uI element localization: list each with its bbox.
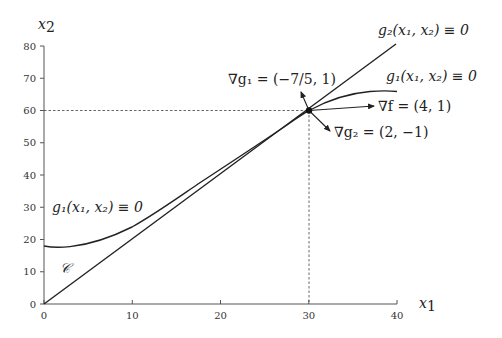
x-ticks: [44, 300, 397, 304]
grad-g2-label: ∇g₂ = (2, −1): [334, 124, 428, 140]
constraint-diagram: 0 10 20 30 40 50 60 70 80 0 10 20 30 40 …: [0, 0, 502, 338]
x-tick-label-10: 10: [126, 310, 139, 321]
y-tick-label-70: 70: [23, 73, 36, 84]
grad-g1-label: ∇g₁ = (−7/5, 1): [228, 71, 336, 87]
x-tick-label-0: 0: [41, 310, 47, 321]
optimal-point: [306, 107, 312, 113]
y-tick-label-0: 0: [30, 299, 36, 310]
g1-constraint-curve: [44, 91, 397, 247]
grad-g2-arrow: [309, 111, 330, 132]
g1-label-right: g₁(x₁, x₂) ≡ 0: [386, 68, 477, 84]
y-ticks: [40, 46, 44, 304]
grad-f-arrow: [309, 106, 374, 111]
x-tick-label-30: 30: [302, 310, 315, 321]
g2-constraint-line: [44, 44, 396, 304]
x-tick-label-20: 20: [214, 310, 227, 321]
y-tick-label-50: 50: [23, 137, 36, 148]
y-tick-label-30: 30: [23, 202, 36, 213]
y-tick-label-60: 60: [23, 105, 36, 116]
g2-label: g₂(x₁, x₂) ≡ 0: [378, 22, 469, 38]
y-axis-label: x2: [38, 16, 55, 35]
y-tick-label-20: 20: [23, 234, 36, 245]
y-tick-label-10: 10: [23, 266, 36, 277]
grad-f-label: ∇f = (4, 1): [378, 98, 451, 114]
g1-label-left: g₁(x₁, x₂) ≡ 0: [52, 199, 143, 215]
y-tick-label-80: 80: [23, 41, 36, 52]
y-tick-label-40: 40: [23, 170, 36, 181]
feasible-region-label: 𝒞: [60, 260, 74, 276]
x-tick-label-40: 40: [391, 310, 404, 321]
x-axis-label: x1: [419, 295, 436, 314]
